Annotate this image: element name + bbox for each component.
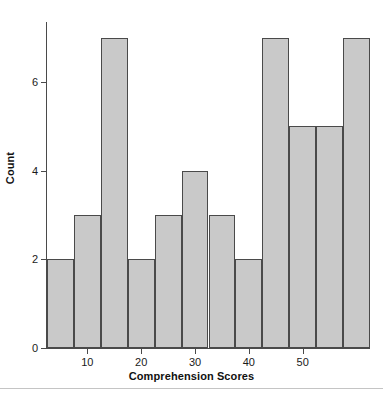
y-axis-title: Count	[4, 138, 16, 198]
x-axis-tick-label: 20	[121, 357, 161, 368]
x-axis-tick-label: 30	[175, 357, 215, 368]
histogram-figure: 0246 1020304050 Comprehension Scores Cou…	[0, 0, 383, 401]
y-axis-tick-label: 6	[10, 77, 38, 88]
histogram-bar	[155, 215, 182, 348]
histogram-bar	[235, 259, 262, 348]
x-axis-tick-label: 10	[67, 357, 107, 368]
y-axis-tick	[41, 171, 46, 172]
x-axis-tick	[141, 349, 142, 354]
histogram-bar	[101, 38, 128, 348]
x-axis-title: Comprehension Scores	[0, 370, 383, 382]
plot-area	[47, 22, 370, 348]
histogram-bar	[128, 259, 155, 348]
histogram-bar	[182, 171, 209, 348]
x-axis-tick	[195, 349, 196, 354]
histogram-bar	[262, 38, 289, 348]
y-axis-tick-label: 2	[10, 254, 38, 265]
x-axis-line	[46, 348, 370, 349]
y-axis-tick	[41, 82, 46, 83]
x-axis-tick	[303, 349, 304, 354]
x-axis-tick	[249, 349, 250, 354]
bottom-divider	[0, 388, 383, 389]
histogram-bar	[47, 259, 74, 348]
histogram-bar	[209, 215, 236, 348]
y-axis-tick	[41, 259, 46, 260]
histogram-bar	[316, 126, 343, 348]
x-axis-tick-label: 40	[229, 357, 269, 368]
histogram-bar	[289, 126, 316, 348]
y-axis-line	[46, 22, 47, 349]
histogram-bar	[74, 215, 101, 348]
x-axis-tick-label: 50	[283, 357, 323, 368]
y-axis-tick-label: 0	[10, 343, 38, 354]
x-axis-tick	[87, 349, 88, 354]
histogram-bar	[343, 38, 370, 348]
y-axis-tick	[41, 348, 46, 349]
